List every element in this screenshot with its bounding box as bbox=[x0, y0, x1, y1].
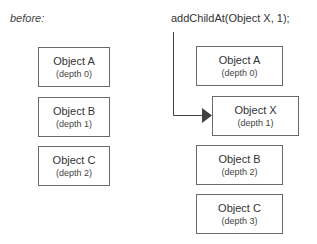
object-depth: (depth 0) bbox=[221, 67, 257, 79]
object-depth: (depth 3) bbox=[221, 215, 257, 227]
after-object-b-box: Object B (depth 2) bbox=[196, 145, 283, 185]
after-object-x-box: Object X (depth 1) bbox=[212, 96, 299, 136]
object-name: Object B bbox=[218, 153, 260, 166]
after-object-c-box: Object C (depth 3) bbox=[196, 194, 283, 234]
object-name: Object X bbox=[234, 104, 276, 117]
object-name: Object C bbox=[218, 202, 261, 215]
after-object-a-box: Object A (depth 0) bbox=[196, 46, 283, 86]
object-depth: (depth 2) bbox=[221, 166, 257, 178]
object-name: Object A bbox=[219, 54, 261, 67]
object-depth: (depth 1) bbox=[237, 117, 273, 129]
